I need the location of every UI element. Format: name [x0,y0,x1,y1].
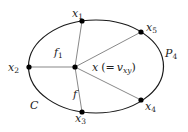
label-x4: x4 [145,100,156,114]
label-face-f1: f1 [53,46,63,60]
edge-x-x1 [75,21,82,67]
vertex-center-x [72,64,77,69]
graph-figure: x1 x2 x3 x4 x5 f1 f x(=vxy) P4 C [0,0,188,132]
label-x1: x1 [72,7,83,21]
vertex-x2 [26,64,31,69]
label-x3: x3 [75,112,86,126]
label-face-f: f [72,88,79,101]
label-x2: x2 [8,61,19,75]
label-cycle-c: C [30,99,39,112]
label-path-p4: P4 [164,47,177,61]
vertex-x4 [138,97,143,102]
vertex-x5 [138,29,143,34]
label-center-x: x(=vxy) [92,61,136,75]
label-x5: x5 [146,21,157,35]
diagram-canvas: x1 x2 x3 x4 x5 f1 f x(=vxy) P4 C [0,0,188,132]
